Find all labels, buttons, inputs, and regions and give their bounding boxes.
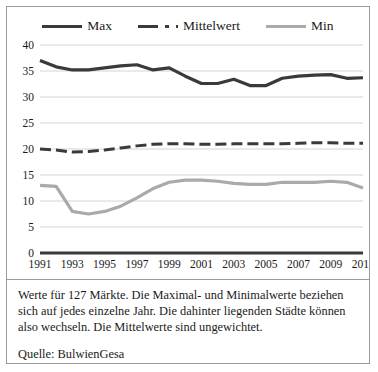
x-axis-tick-label: 2009 — [319, 258, 342, 270]
legend-entry-mittelwert: Mittelwert — [138, 19, 240, 33]
figure-container: Max Mittelwert Min 0510152025303540 — [6, 6, 370, 364]
series-line-mittelwert — [40, 143, 363, 152]
y-axis-tick-label: 5 — [28, 221, 34, 233]
x-axis-tick-label: 1993 — [61, 258, 84, 270]
y-axis-tick-label: 25 — [23, 117, 35, 129]
y-axis-tick-label: 15 — [23, 169, 35, 181]
x-axis-tick-label: 2007 — [287, 258, 310, 270]
caption-text: Werte für 127 Märkte. Die Maximal- und M… — [18, 288, 358, 336]
x-axis-tick-label: 2003 — [222, 258, 245, 270]
x-axis-tick-label: 1999 — [158, 258, 181, 270]
legend-swatch-min-icon — [266, 21, 306, 32]
x-axis-tick-label: 1995 — [93, 258, 116, 270]
y-axis-tick-labels: 0510152025303540 — [23, 39, 35, 259]
legend-label-mittelwert: Mittelwert — [183, 19, 240, 33]
chart-area: Max Mittelwert Min 0510152025303540 — [7, 7, 369, 279]
y-axis-tick-label: 35 — [23, 65, 35, 77]
legend-entry-min: Min — [266, 19, 334, 33]
x-axis-tick-label: 1997 — [125, 258, 148, 270]
x-axis-tick-label: 1991 — [29, 258, 52, 270]
plot-wrapper: 0510152025303540 19911993199519971999200… — [7, 37, 369, 279]
legend-swatch-max-icon — [42, 21, 82, 32]
x-axis-tick-label: 2001 — [190, 258, 213, 270]
legend-entry-max: Max — [42, 19, 112, 33]
x-axis-tick-labels: 1991199319951997199920012003200520072009… — [29, 258, 370, 270]
line-chart-svg: 0510152025303540 19911993199519971999200… — [7, 37, 369, 279]
series-line-min — [40, 180, 363, 214]
x-axis-tick-label: 2011 — [352, 258, 369, 270]
caption-block: Werte für 127 Märkte. Die Maximal- und M… — [7, 279, 369, 363]
legend-label-min: Min — [311, 19, 334, 33]
chart-legend: Max Mittelwert Min — [7, 15, 369, 37]
legend-label-max: Max — [87, 19, 112, 33]
series-paths-group — [40, 61, 363, 214]
y-axis-tick-label: 10 — [23, 195, 35, 207]
legend-swatch-mittelwert-icon — [138, 21, 178, 32]
y-axis-tick-label: 30 — [23, 91, 35, 103]
x-axis-tick-label: 2005 — [255, 258, 278, 270]
series-line-max — [40, 61, 363, 86]
source-text: Quelle: BulwienGesa — [18, 347, 358, 363]
y-axis-tick-label: 40 — [23, 39, 35, 51]
y-axis-tick-label: 20 — [23, 143, 35, 155]
